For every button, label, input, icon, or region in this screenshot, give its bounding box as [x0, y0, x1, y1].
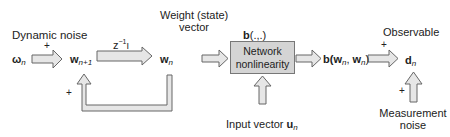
b-function-label: b(.,.): [243, 29, 266, 41]
b-args: (.,.): [250, 29, 267, 41]
w-n-symbol: wn: [160, 53, 173, 69]
network-output-symbol: b(wn, wn): [323, 53, 369, 69]
b-out-suffix: ): [366, 53, 370, 65]
delay-identity: I: [126, 41, 129, 51]
arrow-w-to-network: [202, 50, 228, 67]
measurement-noise-line2: noise: [378, 119, 448, 131]
weight-vector-label: Weight (state) vector: [160, 9, 228, 33]
b-out-w1: w: [333, 53, 342, 65]
observable-label: Observable: [383, 26, 439, 38]
omega-subscript: n: [21, 58, 25, 67]
measurement-noise-line1: Measurement: [378, 107, 448, 119]
u-subscript: n: [293, 123, 297, 132]
network-nonlinearity-block: Network nonlinearity: [230, 41, 295, 74]
w-next-subscript: n+1: [79, 58, 93, 67]
plus-sign-observable: +: [381, 40, 387, 50]
omega-n-symbol: ωn: [12, 53, 26, 69]
arrow-measurement-up: [405, 72, 422, 102]
plus-sign-feedback: +: [66, 88, 72, 98]
w-next-symbol: wn+1: [70, 53, 92, 69]
b-letter: b: [243, 29, 250, 41]
b-out-w2: w: [353, 53, 362, 65]
d-subscript: n: [412, 59, 416, 68]
arrow-noise-to-sum: [32, 50, 62, 68]
arrow-network-to-output: [296, 50, 321, 67]
weight-vector-line1: Weight (state): [160, 9, 228, 21]
delay-operator: z−1I: [113, 36, 129, 52]
input-vector-text: Input vector: [226, 118, 283, 130]
w-n-subscript: n: [169, 58, 173, 67]
arrow-output-to-observable: [368, 50, 398, 67]
omega-symbol: ω: [12, 53, 21, 65]
arrow-input-up: [254, 76, 271, 104]
input-vector-label: Input vector un: [226, 118, 298, 134]
block-line2: nonlinearity: [231, 58, 294, 71]
b-out-prefix: b(: [323, 53, 333, 65]
w-n-letter: w: [160, 53, 169, 65]
plus-sign-measurement: +: [399, 86, 405, 96]
arrow-feedback-loop: [77, 74, 172, 111]
block-line1: Network: [231, 45, 294, 58]
weight-vector-line2: vector: [160, 21, 228, 33]
measurement-noise-label: Measurement noise: [378, 107, 448, 131]
d-letter: d: [405, 54, 412, 66]
plus-sign-noise: +: [44, 41, 50, 51]
w-next-letter: w: [70, 53, 79, 65]
d-n-symbol: dn: [405, 54, 416, 70]
